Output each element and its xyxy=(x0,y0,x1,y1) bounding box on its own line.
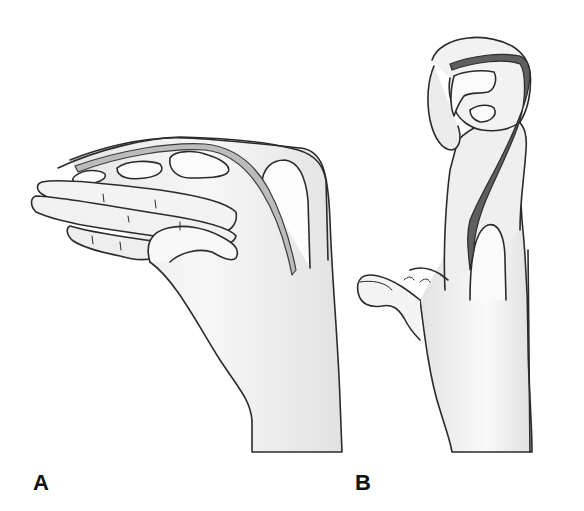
hand-illustration xyxy=(0,0,584,511)
figure-caption-partial xyxy=(40,500,580,511)
medical-figure: A B xyxy=(0,0,584,511)
panel-b-drawing xyxy=(358,37,532,452)
panel-label-a: A xyxy=(33,472,49,494)
panel-a-drawing xyxy=(32,137,343,452)
panel-label-b: B xyxy=(355,472,371,494)
